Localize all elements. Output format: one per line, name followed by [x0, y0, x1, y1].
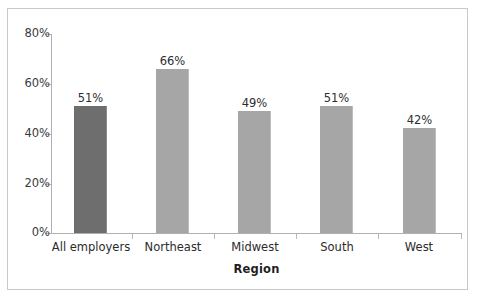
- bar-all-employers[interactable]: [74, 106, 107, 233]
- bar-value-all-employers: 51%: [58, 92, 123, 104]
- x-tick-1: [132, 234, 133, 239]
- x-tick-2: [214, 234, 215, 239]
- y-axis-label-0: 0%: [12, 227, 50, 238]
- bar-west[interactable]: [403, 128, 436, 233]
- bar-midwest[interactable]: [238, 111, 271, 233]
- x-axis-category-all-employers: All employers: [46, 241, 136, 254]
- y-axis-line: [51, 34, 52, 234]
- y-axis-label-20: 20%: [12, 178, 50, 189]
- bar-value-south: 51%: [304, 92, 369, 104]
- x-axis-line: [51, 233, 462, 234]
- x-tick-4: [378, 234, 379, 239]
- y-axis-label-80: 80%: [12, 28, 50, 39]
- bar-south[interactable]: [320, 106, 353, 233]
- x-axis-title: Region: [51, 262, 462, 276]
- x-axis-category-northeast: Northeast: [132, 241, 214, 254]
- x-axis-category-midwest: Midwest: [214, 241, 296, 254]
- bar-value-northeast: 66%: [140, 55, 205, 67]
- bar-value-midwest: 49%: [222, 97, 287, 109]
- chart-frame: 80% 60% 40% 20% 0% 51% 66% 49% 51% 42% A…: [7, 8, 468, 290]
- x-axis-category-west: West: [378, 241, 460, 254]
- x-tick-3: [296, 234, 297, 239]
- bar-northeast[interactable]: [156, 69, 189, 233]
- y-axis-label-60: 60%: [12, 78, 50, 89]
- y-axis-label-40: 40%: [12, 128, 50, 139]
- x-axis-category-south: South: [296, 241, 378, 254]
- bar-value-west: 42%: [387, 114, 452, 126]
- x-tick-5: [461, 234, 462, 239]
